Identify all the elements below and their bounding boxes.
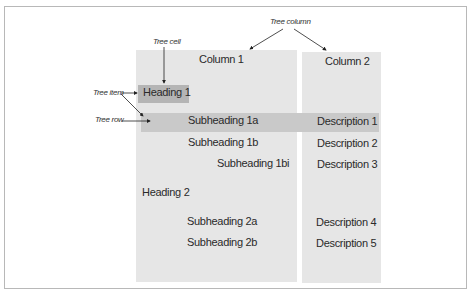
annotation-arrows <box>0 0 473 295</box>
